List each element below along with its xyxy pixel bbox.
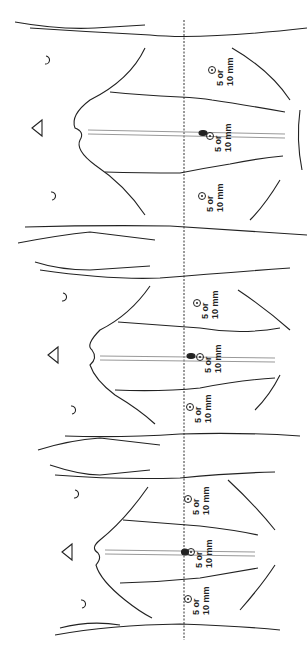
port-size-label: 5 or <box>204 356 213 373</box>
port-size-label: 10 mm <box>202 486 211 515</box>
panel-bottom <box>38 438 280 635</box>
port-size-label: 10 mm <box>226 57 235 86</box>
port-size-label: 5 or <box>206 195 215 212</box>
port-size-label: 10 mm <box>204 394 213 423</box>
port-size-label: 5 or <box>214 135 223 152</box>
port-size-label: 5 or <box>194 406 203 423</box>
port-size-label: 5 or <box>216 69 225 86</box>
port-size-label: 10 mm <box>205 539 214 568</box>
port-size-label: 5 or <box>195 551 204 568</box>
port-size-label: 10 mm <box>214 344 223 373</box>
port-size-label: 5 or <box>192 498 201 515</box>
port-placement-diagram <box>0 0 307 652</box>
port-size-label: 10 mm <box>224 123 233 152</box>
port-size-label: 5 or <box>201 302 210 319</box>
port-size-label: 5 or <box>192 598 201 615</box>
port-size-label: 10 mm <box>202 586 211 615</box>
port-size-label: 10 mm <box>216 183 225 212</box>
port-size-label: 10 mm <box>211 290 220 319</box>
panel-middle <box>18 226 307 437</box>
panel-top <box>15 22 307 220</box>
